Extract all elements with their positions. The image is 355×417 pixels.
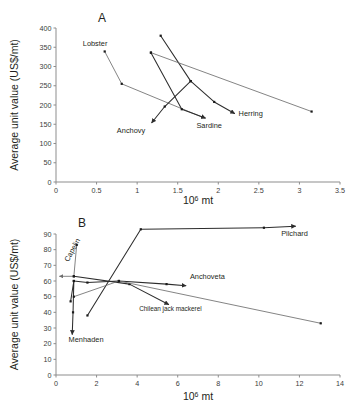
x-tick-label: 3.5 <box>335 186 345 195</box>
y-tick-label: 0 <box>48 178 52 187</box>
series-path-arrow <box>167 284 186 286</box>
data-point <box>181 108 183 110</box>
series-path-arrow <box>182 109 206 118</box>
series-path <box>87 228 263 316</box>
series-path-arrow <box>152 107 165 123</box>
x-tick-label: 0.5 <box>92 186 102 195</box>
series-group: CapelinMenhadenAnchovetaChilean jack mac… <box>60 226 322 344</box>
series-group: LobsterAnchovySardineHerring <box>83 35 313 135</box>
y-tick-label: 50 <box>44 158 52 167</box>
series-label: Lobster <box>83 39 108 48</box>
y-tick-label: 20 <box>44 339 52 348</box>
y-tick-label: 0 <box>48 371 52 380</box>
data-point <box>104 50 106 52</box>
data-point <box>150 52 152 54</box>
y-axis-title: Average unit value (US$/mt) <box>8 39 20 171</box>
series-path-arrow <box>151 53 312 112</box>
y-tick-label: 50 <box>44 292 52 301</box>
y-axis-title: Average unit value (US$/mt) <box>8 239 20 371</box>
series-path <box>161 36 191 107</box>
panel-letter: B <box>78 216 86 230</box>
x-tick-label: 14 <box>336 379 344 388</box>
series-path <box>74 276 130 284</box>
panel-b: 010203040506070809002468101214B106 mtAve… <box>0 205 355 417</box>
series-path-arrow <box>72 312 73 334</box>
series-anchovy: Anchovy <box>117 35 192 135</box>
y-tick-label: 10 <box>44 355 52 364</box>
series-capelin: Capelin <box>60 237 82 278</box>
data-point <box>213 101 215 103</box>
y-tick-label: 90 <box>44 230 52 239</box>
data-point <box>73 275 75 277</box>
x-tick-label: 3 <box>297 186 301 195</box>
data-point <box>164 105 166 107</box>
data-point <box>160 35 162 37</box>
y-tick-label: 200 <box>40 101 52 110</box>
x-tick-label: 2 <box>95 379 99 388</box>
data-point <box>72 311 74 313</box>
series-path-arrow <box>214 102 234 114</box>
data-point <box>121 83 123 85</box>
y-tick-label: 300 <box>40 62 52 71</box>
series-label: Capelin <box>62 237 82 263</box>
x-tick-label: 10 <box>255 379 263 388</box>
axes-group: 05010015020025030035040000.511.522.533.5 <box>40 24 346 195</box>
panel-a: 05010015020025030035040000.511.522.533.5… <box>0 0 355 208</box>
x-tick-label: 0 <box>54 379 58 388</box>
x-axis-title: 106 mt <box>183 390 213 402</box>
series-label: Chilean jack mackerel <box>139 305 202 313</box>
y-tick-label: 100 <box>40 139 52 148</box>
x-tick-label: 4 <box>135 379 139 388</box>
series-path-arrow <box>119 281 321 323</box>
panel-a-chart: 05010015020025030035040000.511.522.533.5… <box>0 0 355 208</box>
y-tick-label: 80 <box>44 245 52 254</box>
series-label: Anchovy <box>117 126 146 135</box>
x-tick-label: 12 <box>295 379 303 388</box>
x-tick-label: 0 <box>54 186 58 195</box>
data-point <box>165 283 167 285</box>
y-tick-label: 60 <box>44 277 52 286</box>
data-point <box>311 110 313 112</box>
series-label: Anchoveta <box>190 272 226 281</box>
y-tick-label: 250 <box>40 81 52 90</box>
data-point <box>73 280 75 282</box>
data-point <box>263 227 265 229</box>
data-point <box>86 314 88 316</box>
y-tick-label: 350 <box>40 43 52 52</box>
x-tick-label: 1.5 <box>173 186 183 195</box>
x-tick-label: 6 <box>176 379 180 388</box>
y-tick-label: 30 <box>44 324 52 333</box>
series-lobster-long-decline <box>150 52 313 113</box>
series-lobster: Lobster <box>83 39 205 118</box>
y-tick-label: 150 <box>40 120 52 129</box>
data-point <box>190 80 192 82</box>
figure-container: 05010015020025030035040000.511.522.533.5… <box>0 0 355 417</box>
x-tick-label: 1 <box>135 186 139 195</box>
data-point <box>86 281 88 283</box>
data-point <box>140 228 142 230</box>
series-label: Herring <box>239 109 263 118</box>
data-point <box>320 322 322 324</box>
data-point <box>118 280 120 282</box>
series-label: Menhaden <box>69 335 104 344</box>
series-sardine: Sardine <box>150 52 222 131</box>
series-path <box>105 51 122 83</box>
series-label: Sardine <box>196 121 221 130</box>
y-tick-label: 70 <box>44 261 52 270</box>
series-herring: Herring <box>190 80 263 118</box>
data-point <box>73 296 75 298</box>
series-path <box>74 281 119 297</box>
x-tick-label: 8 <box>216 379 220 388</box>
panel-letter: A <box>98 11 106 25</box>
series-menhaden: Menhaden <box>69 280 104 344</box>
series-path-arrow <box>264 226 295 228</box>
x-tick-label: 2.5 <box>254 186 264 195</box>
series-label: Pilchard <box>281 229 308 238</box>
series-pilchard: Pilchard <box>86 226 308 316</box>
series-path <box>191 81 215 102</box>
data-point <box>70 300 72 302</box>
y-tick-label: 40 <box>44 308 52 317</box>
x-tick-label: 2 <box>216 186 220 195</box>
panel-b-chart: 010203040506070809002468101214B106 mtAve… <box>0 205 355 417</box>
series-pilchard-decline <box>73 280 322 325</box>
